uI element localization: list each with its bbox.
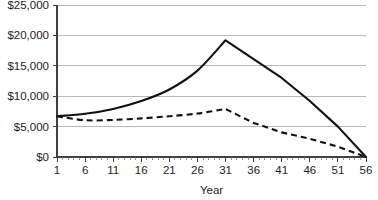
x-axis-tick-label: 11: [107, 164, 119, 176]
y-axis-tick-label: $5,000: [14, 121, 49, 133]
x-axis-tick-label: 16: [135, 164, 148, 176]
x-axis-tick-label: 1: [54, 164, 60, 176]
y-axis-tick-label: $20,000: [7, 29, 49, 41]
x-axis-tick-label: 6: [82, 164, 88, 176]
x-axis-tick-label: 26: [191, 164, 204, 176]
x-axis-tick-label: 56: [360, 164, 373, 176]
line-chart: $0$5,000$10,000$15,000$20,000$25,0001611…: [0, 0, 378, 200]
chart-container: $0$5,000$10,000$15,000$20,000$25,0001611…: [0, 0, 378, 200]
y-axis-tick-label: $0: [36, 151, 49, 163]
x-axis-tick-label: 21: [163, 164, 176, 176]
x-axis-tick-label: 31: [219, 164, 232, 176]
x-axis-tick-label: 51: [332, 164, 345, 176]
y-axis-tick-label: $25,000: [7, 0, 49, 11]
x-axis-tick-label: 41: [275, 164, 288, 176]
x-axis-tick-label: 46: [303, 164, 316, 176]
y-axis-tick-label: $15,000: [7, 60, 49, 72]
x-axis-tick-label: 36: [247, 164, 260, 176]
series-line-dashed-series: [57, 109, 366, 157]
series-line-solid-series: [57, 40, 366, 157]
x-axis-title: Year: [200, 184, 223, 196]
y-axis-tick-label: $10,000: [7, 90, 49, 102]
